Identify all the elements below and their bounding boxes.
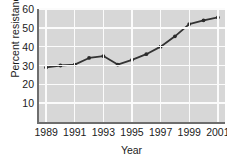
gridline-vertical <box>45 9 46 122</box>
y-tick-label: 50 <box>16 23 34 34</box>
x-tick-label: 1993 <box>92 127 115 138</box>
x-tick-label: 1989 <box>34 127 57 138</box>
data-point-marker <box>87 56 91 60</box>
y-tick-label: 20 <box>16 79 34 90</box>
y-tick-label: 40 <box>16 42 34 53</box>
x-axis-label: Year <box>36 144 227 156</box>
gridline-vertical <box>74 9 75 122</box>
gridline-vertical <box>189 9 190 122</box>
data-point-marker <box>202 18 206 22</box>
y-tick-label: 60 <box>16 4 34 15</box>
x-tick-label: 1991 <box>63 127 86 138</box>
x-tick-label: 1999 <box>178 127 201 138</box>
y-tick-label: 10 <box>16 98 34 109</box>
x-tick-label: 1997 <box>149 127 172 138</box>
y-tick-label: 30 <box>16 61 34 72</box>
gridline-vertical <box>103 9 104 122</box>
x-axis-tick-labels: 1989199119931995199719992001 <box>0 124 227 140</box>
x-tick-label: 2001 <box>206 127 227 138</box>
gridline-vertical <box>160 9 161 122</box>
plot-area <box>39 9 225 122</box>
gridline-vertical <box>217 9 218 122</box>
x-tick-label: 1995 <box>120 127 143 138</box>
gridline-vertical <box>131 9 132 122</box>
y-axis-spine <box>37 9 39 123</box>
data-point-marker <box>173 34 177 38</box>
chart-figure: Percent resistance 102030405060 19891991… <box>0 0 227 161</box>
data-point-marker <box>144 52 148 56</box>
